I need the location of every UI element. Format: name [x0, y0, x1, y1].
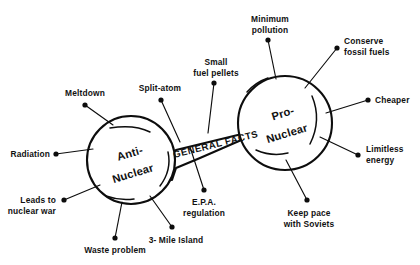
spoke-dot-minimum-pollution [265, 37, 270, 42]
spoke-label-minimum-pollution-line1: Minimum [251, 14, 289, 24]
spoke-label-leads-to-nuclear-war-line2: nuclear war [8, 206, 57, 216]
spoke-dot-leads-to-nuclear-war [61, 197, 66, 202]
spoke-dot-keep-pace-with-soviets [304, 197, 309, 202]
spoke-line-three-mile-island [150, 196, 172, 227]
spoke-dot-three-mile-island [169, 224, 174, 229]
spoke-line-meltdown [85, 105, 113, 125]
spoke-leads-to-nuclear-war[interactable]: Leads tonuclear war [8, 185, 100, 216]
spoke-meltdown[interactable]: Meltdown [65, 88, 113, 125]
spoke-label-conserve-fossil-fuels-line1: Conserve [344, 36, 384, 46]
spoke-line-conserve-fossil-fuels [305, 48, 337, 88]
spoke-label-meltdown: Meltdown [65, 88, 105, 98]
spoke-cheaper[interactable]: Cheaper [326, 95, 410, 113]
spoke-line-minimum-pollution [268, 40, 276, 79]
spoke-small-fuel-pellets[interactable]: Smallfuel pellets [193, 57, 239, 133]
spoke-label-radiation: Radiation [10, 149, 50, 159]
node-anti-nuclear[interactable] [87, 116, 175, 204]
spoke-label-small-fuel-pellets-line1: Small [204, 57, 227, 67]
spoke-layer: MeltdownRadiationLeads tonuclear warWast… [8, 14, 410, 255]
spoke-label-split-atom: Split-atom [139, 83, 181, 93]
spoke-label-keep-pace-with-soviets-line2: with Soviets [283, 219, 335, 229]
spoke-label-epa-regulation-line1: E.P.A. [192, 197, 216, 207]
spoke-dot-epa-regulation [201, 187, 206, 192]
spoke-limitless-energy[interactable]: Limitlessenergy [320, 137, 404, 165]
spoke-radiation[interactable]: Radiation [10, 149, 93, 159]
spoke-minimum-pollution[interactable]: Minimumpollution [251, 14, 289, 79]
spoke-conserve-fossil-fuels[interactable]: Conservefossil fuels [305, 36, 390, 88]
concept-map-canvas: Anti- Nuclear Pro- Nuclear GENERAL FACTS… [0, 0, 420, 265]
concept-map-svg: Anti- Nuclear Pro- Nuclear GENERAL FACTS… [0, 0, 420, 265]
spoke-label-small-fuel-pellets-line2: fuel pellets [193, 68, 239, 78]
spoke-dot-split-atom [158, 97, 163, 102]
spoke-label-cheaper: Cheaper [375, 95, 410, 105]
spoke-label-limitless-energy-line1: Limitless [366, 144, 404, 154]
spoke-line-waste-problem [115, 202, 122, 238]
spoke-dot-meltdown [82, 102, 87, 107]
spoke-dot-small-fuel-pellets [211, 80, 216, 85]
spoke-label-leads-to-nuclear-war-line1: Leads to [20, 195, 56, 205]
spoke-label-keep-pace-with-soviets-line1: Keep pace [287, 208, 330, 218]
spoke-waste-problem[interactable]: Waste problem [84, 202, 146, 255]
anti-nuclear-circle [87, 116, 175, 204]
spoke-label-conserve-fossil-fuels-line2: fossil fuels [344, 47, 390, 57]
spoke-line-small-fuel-pellets [208, 83, 214, 133]
spoke-label-minimum-pollution-line2: pollution [252, 25, 289, 35]
pro-nuclear-circle [238, 76, 332, 170]
spoke-dot-waste-problem [112, 235, 117, 240]
node-pro-nuclear[interactable] [238, 76, 332, 170]
spoke-dot-limitless-energy [355, 152, 360, 157]
spoke-label-three-mile-island: 3- Mile Island [149, 235, 204, 245]
spoke-label-waste-problem: Waste problem [84, 245, 146, 255]
spoke-label-epa-regulation-line2: regulation [183, 208, 225, 218]
spoke-dot-radiation [53, 151, 58, 156]
spoke-line-leads-to-nuclear-war [64, 185, 100, 200]
spoke-dot-cheaper [365, 97, 370, 102]
spoke-label-limitless-energy-line2: energy [366, 155, 395, 165]
spoke-line-cheaper [326, 100, 368, 113]
spoke-dot-conserve-fossil-fuels [334, 45, 339, 50]
